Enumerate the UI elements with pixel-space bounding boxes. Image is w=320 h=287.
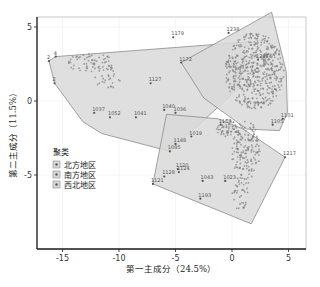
- point-label: 1158: [219, 118, 232, 124]
- data-point: [236, 97, 238, 99]
- legend-dot-icon: [55, 173, 57, 175]
- data-point: [237, 134, 239, 136]
- data-point: [222, 126, 224, 128]
- data-point: [251, 168, 253, 170]
- data-point: [268, 37, 270, 39]
- data-point: [178, 171, 180, 173]
- data-point: [242, 150, 244, 152]
- data-point: [227, 131, 229, 133]
- data-point: [242, 168, 244, 170]
- data-point: [281, 78, 283, 80]
- data-point: [246, 34, 248, 36]
- data-point: [221, 131, 223, 133]
- x-axis-title: 第一主成分（24.5%）: [126, 264, 216, 274]
- data-point: [274, 46, 276, 48]
- data-point: [232, 158, 234, 160]
- data-point: [260, 42, 262, 44]
- data-point: [278, 86, 280, 88]
- data-point: [257, 40, 259, 42]
- data-point: [278, 81, 280, 83]
- data-point: [246, 80, 248, 82]
- data-point: [99, 68, 101, 70]
- data-point: [248, 173, 250, 175]
- data-point: [243, 178, 245, 180]
- data-point: [274, 77, 276, 79]
- data-point: [172, 36, 174, 38]
- data-point: [246, 103, 248, 105]
- data-point: [240, 154, 242, 156]
- data-point: [243, 184, 245, 186]
- data-point: [271, 74, 273, 76]
- data-point: [104, 62, 106, 64]
- data-point: [253, 151, 255, 153]
- data-point: [228, 126, 230, 128]
- data-point: [110, 67, 112, 69]
- data-point: [236, 207, 238, 209]
- data-point: [264, 60, 266, 62]
- data-point: [254, 159, 256, 161]
- data-point: [263, 61, 265, 63]
- data-point: [245, 182, 247, 184]
- data-point: [240, 44, 242, 46]
- data-point: [250, 160, 252, 162]
- data-point: [251, 58, 253, 60]
- data-point: [262, 97, 264, 99]
- data-point: [248, 134, 250, 136]
- data-point: [241, 59, 243, 61]
- data-point: [258, 154, 260, 156]
- data-point: [99, 82, 101, 84]
- data-point: [112, 87, 114, 89]
- data-point: [253, 127, 255, 129]
- data-point: [239, 138, 241, 140]
- data-point: [275, 53, 277, 55]
- data-point: [232, 153, 234, 155]
- y-tick-label: 5: [27, 23, 32, 32]
- data-point: [253, 133, 255, 135]
- data-point: [225, 65, 227, 67]
- data-point: [264, 40, 266, 42]
- data-point: [248, 166, 250, 168]
- data-point: [234, 80, 236, 82]
- data-point: [251, 163, 253, 165]
- data-point: [242, 65, 244, 67]
- data-point: [275, 95, 277, 97]
- data-point: [226, 64, 228, 66]
- data-point: [256, 50, 258, 52]
- x-tick-label: -5: [172, 254, 180, 263]
- data-point: [94, 64, 96, 66]
- data-point: [190, 135, 192, 137]
- data-point: [250, 66, 252, 68]
- data-point: [233, 75, 235, 77]
- data-point: [243, 128, 245, 130]
- data-point: [272, 124, 274, 126]
- pca-scatter-chart: 2421127103710521041117910401036109511721…: [0, 0, 320, 287]
- data-point: [83, 54, 85, 56]
- data-point: [284, 156, 286, 158]
- data-point: [259, 150, 261, 152]
- data-point: [249, 33, 251, 35]
- data-point: [70, 67, 72, 69]
- data-point: [247, 86, 249, 88]
- data-point: [244, 121, 246, 123]
- data-point: [252, 124, 254, 126]
- data-point: [241, 182, 243, 184]
- data-point: [216, 128, 218, 130]
- data-point: [102, 78, 104, 80]
- data-point: [255, 129, 257, 131]
- data-point: [243, 202, 245, 204]
- data-point: [48, 60, 50, 62]
- data-point: [266, 78, 268, 80]
- data-point: [233, 87, 235, 89]
- data-point: [276, 77, 278, 79]
- data-point: [251, 48, 253, 50]
- point-label: 1179: [171, 30, 184, 36]
- data-point: [247, 106, 249, 108]
- data-point: [107, 56, 109, 58]
- data-point: [253, 41, 255, 43]
- data-point: [237, 84, 239, 86]
- data-point: [246, 168, 248, 170]
- data-point: [237, 156, 239, 158]
- legend-item-north: 北方地区: [53, 160, 96, 170]
- data-point: [97, 84, 99, 86]
- data-point: [269, 98, 271, 100]
